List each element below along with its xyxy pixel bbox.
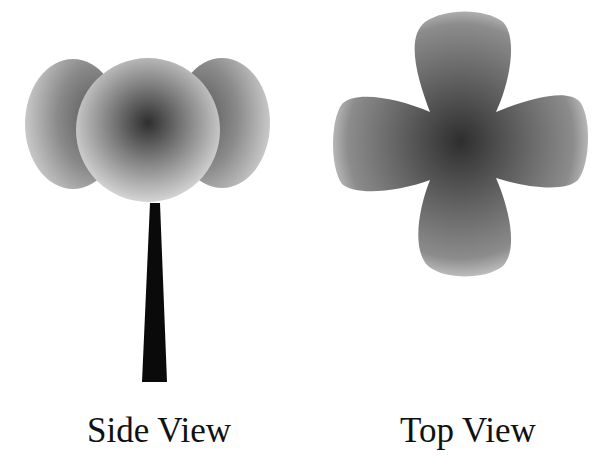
stem xyxy=(142,203,167,382)
side-view-diagram xyxy=(25,58,270,382)
top-view-diagram xyxy=(333,12,588,277)
top-view-label: Top View xyxy=(400,413,536,448)
four-petal-cloverleaf xyxy=(333,12,588,277)
side-view-label: Side View xyxy=(87,413,231,448)
figure-canvas xyxy=(0,0,604,468)
center-sphere xyxy=(76,58,220,202)
